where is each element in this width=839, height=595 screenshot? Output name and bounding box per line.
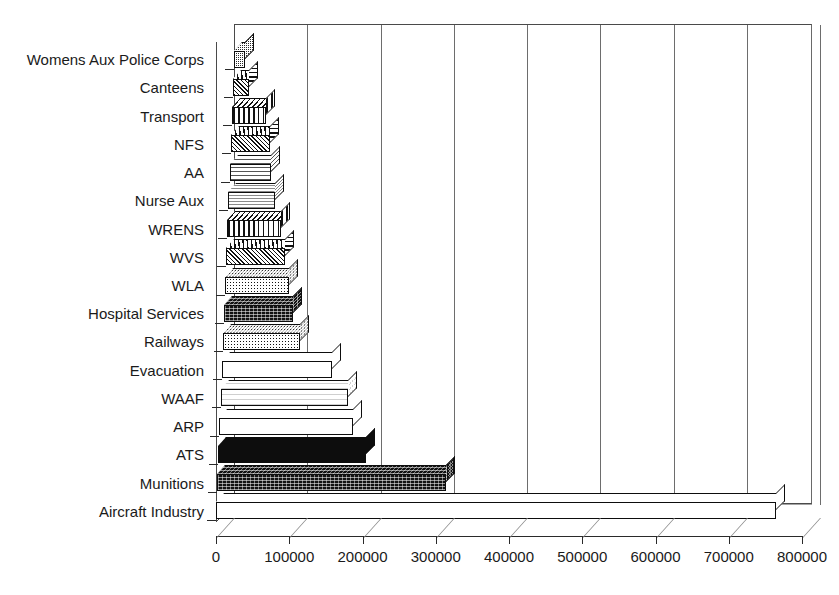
x-axis-tick-label: 400000 (484, 548, 534, 565)
bar-front-face (216, 502, 776, 519)
bar-top-face (221, 380, 357, 389)
x-axis (216, 522, 812, 542)
bar-end-face (266, 89, 275, 115)
bar-hospital-services (224, 305, 294, 322)
bar-aircraft-industry (216, 502, 776, 519)
x-axis-tick-label: 500000 (557, 548, 607, 565)
bar-front-face (221, 389, 348, 406)
bar-front-face (224, 305, 294, 322)
category-tick (223, 125, 232, 126)
bar-front-face (227, 220, 281, 237)
x-axis-tick (656, 536, 657, 544)
bar-womens-aux-police-corps (234, 51, 245, 68)
bar-front-face (230, 164, 272, 181)
bar-front-face (234, 51, 245, 68)
category-tick (221, 182, 230, 183)
bar-wrens (227, 220, 281, 237)
bar-end-face (281, 202, 290, 228)
x-axis-tick-label: 700000 (704, 548, 754, 565)
bar-end-face (275, 174, 284, 200)
bar-front-face (217, 474, 446, 491)
bar-end-face (249, 61, 258, 87)
plot-area (216, 24, 812, 522)
category-label: Nurse Aux (135, 193, 204, 208)
category-tick (208, 492, 217, 493)
x-axis-tick (582, 536, 583, 544)
x-axis-tick-label: 600000 (630, 548, 680, 565)
category-label: Transport (140, 109, 204, 124)
bar-end-face (293, 287, 302, 313)
bar-railways (223, 333, 300, 350)
bar-top-face (219, 409, 360, 418)
bar-aa (230, 164, 272, 181)
bar-top-face (226, 239, 293, 248)
bar-end-face (446, 456, 455, 482)
bar-end-face (353, 400, 362, 426)
bar-evacuation (222, 361, 332, 378)
bar-end-face (285, 230, 294, 256)
bar-top-face (218, 437, 374, 446)
bar-transport (232, 107, 266, 124)
bar-nfs (231, 135, 271, 152)
bar-end-face (300, 315, 309, 341)
x-axis-tick-label: 800000 (777, 548, 827, 565)
category-label: WVS (170, 250, 204, 265)
bar-end-face (270, 117, 279, 143)
x-axis-tick-label: 100000 (264, 548, 314, 565)
bar-munitions (217, 474, 446, 491)
category-label: ATS (176, 447, 204, 462)
bar-front-face (231, 135, 271, 152)
category-label: Railways (144, 334, 204, 349)
bar-end-face (332, 343, 341, 369)
bar-wla (225, 277, 289, 294)
bar-arp (219, 418, 352, 435)
category-label: Munitions (140, 476, 204, 491)
x-axis-tick (216, 536, 217, 544)
bar-canteens (233, 79, 249, 96)
bar-end-face (366, 428, 375, 454)
bar-nurse-aux (228, 192, 274, 209)
bar-end-face (348, 371, 357, 397)
x-axis-tick (363, 536, 364, 544)
x-axis-tick (729, 536, 730, 544)
category-tick (214, 351, 223, 352)
bar-top-face (217, 465, 454, 474)
category-tick (215, 323, 224, 324)
bar-ats (218, 446, 366, 463)
category-label: Aircraft Industry (99, 504, 204, 519)
bar-wvs (226, 248, 285, 265)
bar-front-face (232, 107, 266, 124)
category-tick (219, 210, 228, 211)
bar-top-face (225, 268, 297, 277)
category-label: WAAF (161, 391, 204, 406)
x-axis-tick (289, 536, 290, 544)
x-axis-tick (509, 536, 510, 544)
category-tick (209, 464, 218, 465)
bar-front-face (228, 192, 274, 209)
bar-front-face (218, 446, 366, 463)
category-label: Womens Aux Police Corps (27, 52, 204, 67)
category-label: Hospital Services (88, 306, 204, 321)
bar-front-face (233, 79, 249, 96)
bar-end-face (289, 259, 298, 285)
bar-series (216, 42, 812, 522)
bar-waaf (221, 389, 348, 406)
bar-front-face (226, 248, 285, 265)
category-label: NFS (174, 137, 204, 152)
category-tick (224, 97, 233, 98)
category-tick (210, 436, 219, 437)
bar-front-face (222, 361, 332, 378)
bar-front-face (225, 277, 289, 294)
category-tick (225, 69, 234, 70)
x-axis-tick (802, 536, 803, 544)
bar-front-face (223, 333, 300, 350)
bar-top-face (216, 493, 784, 502)
bar-top-face (224, 296, 302, 305)
category-label: Canteens (140, 80, 204, 95)
gridline (820, 25, 821, 505)
bar-top-face (222, 352, 340, 361)
category-label: ARP (173, 419, 204, 434)
category-tick (207, 520, 216, 521)
category-tick (222, 153, 231, 154)
x-axis-tick-label: 0 (212, 548, 220, 565)
